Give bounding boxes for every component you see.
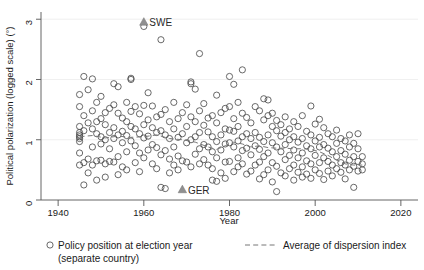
data-point bbox=[166, 119, 172, 125]
data-point bbox=[252, 162, 258, 168]
data-point bbox=[334, 127, 340, 133]
data-point bbox=[94, 177, 100, 183]
x-tick-label-1940: 1940 bbox=[48, 207, 69, 218]
data-point bbox=[111, 81, 117, 87]
data-point bbox=[304, 143, 310, 149]
chart-figure: 0123 19401960198020002020 SWEGER Politic… bbox=[0, 0, 424, 270]
data-point bbox=[222, 126, 228, 132]
data-point bbox=[119, 164, 125, 170]
legend-label-policy-position-line1: Policy position at election year bbox=[58, 240, 193, 251]
data-point bbox=[274, 188, 280, 194]
data-point bbox=[286, 126, 292, 132]
scatter-plot: 0123 19401960198020002020 SWEGER Politic… bbox=[0, 0, 424, 270]
data-point bbox=[192, 151, 198, 157]
data-point bbox=[239, 67, 245, 73]
data-point bbox=[346, 167, 352, 173]
data-point bbox=[192, 119, 198, 125]
annotation-label-ger: GER bbox=[188, 185, 210, 196]
triangle-marker-swe bbox=[140, 18, 148, 26]
data-point bbox=[274, 163, 280, 169]
x-axis-title: Year bbox=[219, 215, 238, 226]
x-tick-label-2020: 2020 bbox=[390, 207, 411, 218]
data-point bbox=[286, 166, 292, 172]
data-point bbox=[209, 149, 215, 155]
data-point bbox=[171, 99, 177, 105]
data-point bbox=[154, 166, 160, 172]
data-point bbox=[325, 131, 331, 137]
data-point bbox=[355, 131, 361, 137]
data-point bbox=[316, 116, 322, 122]
y-tick-label-0: 0 bbox=[23, 201, 34, 206]
data-point bbox=[248, 135, 254, 141]
data-point bbox=[196, 50, 202, 56]
data-point bbox=[338, 147, 344, 153]
data-point bbox=[261, 96, 267, 102]
data-point bbox=[149, 103, 155, 109]
data-point bbox=[76, 91, 82, 97]
data-point bbox=[145, 90, 151, 96]
data-point bbox=[235, 99, 241, 105]
data-point bbox=[115, 84, 121, 90]
data-point bbox=[166, 170, 172, 176]
data-point bbox=[359, 154, 365, 160]
annotation-label-swe: SWE bbox=[149, 17, 172, 28]
data-point bbox=[179, 131, 185, 137]
data-point bbox=[308, 103, 314, 109]
data-point bbox=[325, 158, 331, 164]
data-point bbox=[278, 149, 284, 155]
data-point bbox=[171, 126, 177, 132]
data-point bbox=[76, 104, 82, 110]
data-point bbox=[124, 132, 130, 138]
data-point bbox=[342, 151, 348, 157]
data-point bbox=[154, 144, 160, 150]
data-point bbox=[282, 114, 288, 120]
data-point bbox=[325, 145, 331, 151]
data-point bbox=[291, 147, 297, 153]
country-annotations: SWEGER bbox=[140, 17, 210, 196]
data-point bbox=[239, 161, 245, 167]
y-tick-label-2: 2 bbox=[23, 80, 34, 85]
y-tick-label-1: 1 bbox=[23, 140, 34, 145]
data-point bbox=[248, 120, 254, 126]
data-point bbox=[201, 100, 207, 106]
data-point bbox=[316, 170, 322, 176]
data-point bbox=[321, 176, 327, 182]
data-point bbox=[214, 92, 220, 98]
data-point bbox=[179, 110, 185, 116]
data-point bbox=[239, 134, 245, 140]
data-point bbox=[308, 132, 314, 138]
data-point bbox=[274, 128, 280, 134]
data-point bbox=[201, 157, 207, 163]
data-point bbox=[124, 167, 130, 173]
data-point bbox=[175, 167, 181, 173]
data-point bbox=[291, 162, 297, 168]
data-point bbox=[98, 116, 104, 122]
data-point bbox=[136, 169, 142, 175]
data-point bbox=[308, 175, 314, 181]
data-point bbox=[226, 127, 232, 133]
data-point bbox=[124, 149, 130, 155]
data-point bbox=[171, 144, 177, 150]
data-point bbox=[282, 173, 288, 179]
data-point bbox=[85, 170, 91, 176]
data-point bbox=[132, 104, 138, 110]
data-point bbox=[346, 132, 352, 138]
data-point bbox=[231, 116, 237, 122]
data-point bbox=[321, 155, 327, 161]
data-point bbox=[334, 154, 340, 160]
data-point bbox=[145, 117, 151, 123]
data-point bbox=[149, 141, 155, 147]
data-point bbox=[278, 122, 284, 128]
data-point bbox=[351, 184, 357, 190]
legend-marker-open-circle bbox=[47, 242, 53, 248]
y-tick-label-3: 3 bbox=[23, 20, 34, 25]
data-point bbox=[235, 123, 241, 129]
data-point bbox=[265, 167, 271, 173]
data-point bbox=[265, 132, 271, 138]
data-point bbox=[162, 147, 168, 153]
legend-label-policy-position-line2: (separate country) bbox=[58, 253, 139, 264]
data-point bbox=[342, 176, 348, 182]
data-point bbox=[256, 159, 262, 165]
data-point bbox=[196, 129, 202, 135]
data-point bbox=[85, 87, 91, 93]
